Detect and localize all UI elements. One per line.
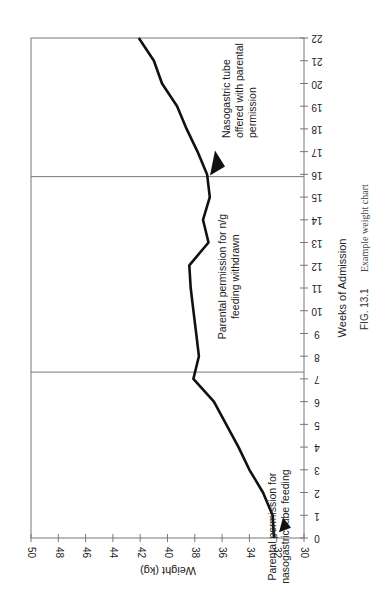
annotation-text: Parental permission for n/gfeeding withd… xyxy=(216,214,241,340)
y-axis-title: Weight (kg) xyxy=(140,565,196,577)
week-tick-label: 20 xyxy=(311,79,323,90)
annotations: Parental permission fornasogastric tube … xyxy=(210,43,291,584)
weight-tick-label: 50 xyxy=(26,547,37,559)
week-axis: 012345678910111213141516171819202122 xyxy=(300,33,323,544)
weight-tick-label: 46 xyxy=(81,547,92,559)
figure-label: FIG. 13.1 xyxy=(359,288,370,330)
week-tick-label: 12 xyxy=(311,261,323,272)
week-tick-label: 8 xyxy=(314,352,320,363)
weight-tick-label: 42 xyxy=(136,547,147,559)
phase-divider-lines xyxy=(31,177,304,372)
svg-text:Parental permission for n/g: Parental permission for n/g xyxy=(216,214,228,340)
arrow-icon xyxy=(210,151,225,176)
week-tick-label: 10 xyxy=(311,306,323,317)
figure-caption: FIG. 13.1 Example weight chart xyxy=(359,184,370,330)
figure-caption-text: Example weight chart xyxy=(359,184,370,272)
weight-chart: 012345678910111213141516171819202122 303… xyxy=(0,0,391,595)
week-tick-label: 3 xyxy=(314,465,320,476)
svg-text:permission: permission xyxy=(246,87,258,138)
weight-tick-label: 38 xyxy=(190,547,201,559)
week-tick-label: 14 xyxy=(311,215,323,226)
svg-text:offered with parental: offered with parental xyxy=(233,43,245,138)
svg-text:feeding withdrawn: feeding withdrawn xyxy=(229,234,241,319)
week-tick-label: 19 xyxy=(311,102,323,113)
week-tick-label: 4 xyxy=(314,442,320,453)
week-tick-label: 2 xyxy=(314,488,320,499)
week-tick-label: 13 xyxy=(311,238,323,249)
week-tick-label: 11 xyxy=(311,283,322,294)
weight-tick-label: 48 xyxy=(54,547,65,559)
svg-text:Parental permission for: Parental permission for xyxy=(266,472,278,580)
week-tick-label: 0 xyxy=(314,533,320,544)
week-tick-label: 7 xyxy=(314,374,320,385)
week-tick-label: 18 xyxy=(311,124,323,135)
plot-frame xyxy=(31,38,304,538)
week-tick-label: 15 xyxy=(311,192,323,203)
x-axis-title: Weeks of Admission xyxy=(336,239,348,338)
week-tick-label: 16 xyxy=(311,170,323,181)
week-tick-label: 21 xyxy=(311,56,323,67)
week-tick-label: 5 xyxy=(314,420,320,431)
week-tick-label: 17 xyxy=(311,147,323,158)
svg-text:Nasogastric tube: Nasogastric tube xyxy=(220,59,232,138)
weight-tick-label: 36 xyxy=(217,547,228,559)
weight-tick-label: 30 xyxy=(299,547,310,559)
weight-tick-label: 44 xyxy=(108,547,119,559)
weight-tick-label: 40 xyxy=(163,547,174,559)
weight-tick-label: 34 xyxy=(245,547,256,559)
week-tick-label: 6 xyxy=(314,397,320,408)
week-tick-label: 1 xyxy=(314,511,320,522)
week-tick-label: 22 xyxy=(311,33,323,44)
annotation-text: Nasogastric tubeoffered with parentalper… xyxy=(220,43,258,138)
week-tick-label: 9 xyxy=(314,329,320,340)
